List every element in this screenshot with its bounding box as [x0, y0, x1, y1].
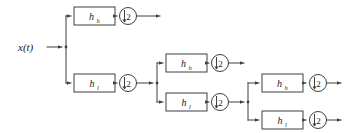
downsample-factor-stage2-low: 2	[218, 98, 223, 108]
filter-label-stage3-low: h	[278, 115, 283, 126]
filter-label-stage1-high: h	[89, 11, 94, 22]
filter-sub-stage3-low: l	[285, 121, 287, 128]
stage-2-split-bus	[156, 63, 159, 102]
downsample-factor-stage2-high: 2	[218, 59, 223, 69]
filter-box-stage3-high	[262, 74, 303, 92]
filter-sub-stage3-high: h	[285, 84, 288, 91]
downsample-factor-stage3-high: 2	[316, 79, 321, 89]
filter-box-stage2-low	[166, 93, 207, 111]
filter-sub-stage1-low: l	[97, 84, 99, 91]
stage-3-split-bus	[247, 83, 250, 120]
filter-sub-stage2-low: l	[189, 103, 191, 110]
downsample-factor-stage1-low: 2	[126, 79, 131, 89]
filter-label-stage3-high: h	[277, 78, 282, 89]
filter-label-stage1-low: h	[90, 78, 95, 89]
stage-1-split-bus	[65, 16, 68, 83]
filter-sub-stage1-high: h	[97, 17, 100, 24]
filter-box-stage2-high	[166, 54, 207, 72]
filter-sub-stage2-high: h	[189, 64, 192, 71]
diagram-canvas: h h 2 h l 2	[0, 0, 356, 133]
downsample-factor-stage1-high: 2	[126, 12, 131, 22]
filter-label-stage2-high: h	[181, 58, 186, 69]
input-signal-label: x(t)	[17, 41, 34, 54]
filter-box-stage3-low	[262, 111, 303, 129]
filter-label-stage2-low: h	[182, 97, 187, 108]
downsample-factor-stage3-low: 2	[316, 116, 321, 126]
filter-box-stage1-low	[74, 74, 115, 92]
filter-bank-diagram: h h 2 h l 2	[0, 0, 356, 133]
filter-box-stage1-high	[74, 7, 115, 25]
